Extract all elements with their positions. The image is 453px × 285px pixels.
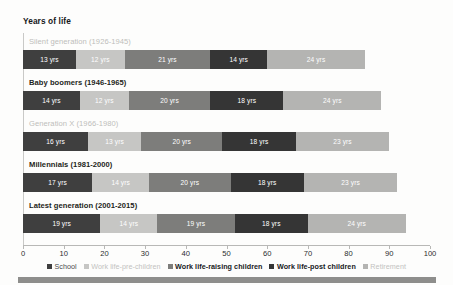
bar-segment[interactable]: 14 yrs bbox=[23, 91, 80, 110]
bar-segment[interactable]: 14 yrs bbox=[210, 50, 267, 69]
bar-segment-label: 14 yrs bbox=[111, 179, 130, 186]
x-axis-tick-label: 100 bbox=[424, 249, 437, 258]
bar-segment-label: 24 yrs bbox=[307, 56, 326, 63]
bar-segment[interactable]: 23 yrs bbox=[304, 173, 398, 192]
legend-item[interactable]: Work life-pre-children bbox=[84, 262, 161, 271]
legend-label: Work life-raising children bbox=[175, 262, 262, 271]
bar-group: Baby boomers (1946-1965)14 yrs12 yrs20 y… bbox=[23, 78, 430, 119]
bar-segment[interactable]: 14 yrs bbox=[92, 173, 149, 192]
bar-group-label: Silent generation (1926-1945) bbox=[29, 37, 131, 46]
x-axis-tick-label: 20 bbox=[100, 249, 108, 258]
bar-segment[interactable]: 19 yrs bbox=[23, 214, 100, 233]
bar-segment-label: 16 yrs bbox=[46, 138, 65, 145]
legend-swatch-icon bbox=[47, 264, 52, 269]
x-axis-tick-label: 90 bbox=[385, 249, 393, 258]
bar-segment-label: 19 yrs bbox=[52, 220, 71, 227]
plot-area: Silent generation (1926-1945)13 yrs12 yr… bbox=[23, 33, 430, 246]
legend-swatch-icon bbox=[269, 264, 274, 269]
legend-item[interactable]: School bbox=[47, 262, 77, 271]
bar-segment[interactable]: 16 yrs bbox=[23, 132, 88, 151]
bar-segment-label: 23 yrs bbox=[333, 138, 352, 145]
bar-segment[interactable]: 12 yrs bbox=[76, 50, 125, 69]
legend-label: Work life-post children bbox=[277, 262, 356, 271]
legend-item[interactable]: Retirement bbox=[363, 262, 406, 271]
x-axis-tick-label: 30 bbox=[141, 249, 149, 258]
bar-segment[interactable]: 23 yrs bbox=[296, 132, 390, 151]
legend-item[interactable]: Work life-raising children bbox=[168, 262, 263, 271]
x-axis-tick-label: 70 bbox=[304, 249, 312, 258]
bar-segment[interactable]: 24 yrs bbox=[283, 91, 381, 110]
bar-segment[interactable]: 17 yrs bbox=[23, 173, 92, 192]
x-axis-tick-label: 0 bbox=[21, 249, 25, 258]
bar-group-label: Millennials (1981-2000) bbox=[29, 160, 112, 169]
bar-group: Generation X (1966-1980)16 yrs13 yrs20 y… bbox=[23, 119, 430, 160]
legend-label: Retirement bbox=[370, 262, 406, 271]
bar-group-label: Latest generation (2001-2015) bbox=[29, 201, 137, 210]
bar-segment[interactable]: 19 yrs bbox=[157, 214, 234, 233]
bar-group-label: Generation X (1966-1980) bbox=[29, 119, 118, 128]
bar-segment[interactable]: 18 yrs bbox=[210, 91, 283, 110]
bar-segment-label: 13 yrs bbox=[105, 138, 124, 145]
bar-segment-label: 12 yrs bbox=[91, 56, 110, 63]
stacked-bar: 19 yrs14 yrs19 yrs18 yrs24 yrs bbox=[23, 214, 430, 233]
bar-segment-label: 18 yrs bbox=[258, 179, 277, 186]
bar-segment-label: 24 yrs bbox=[323, 97, 342, 104]
legend-swatch-icon bbox=[84, 264, 89, 269]
bar-group: Silent generation (1926-1945)13 yrs12 yr… bbox=[23, 37, 430, 78]
bar-segment-label: 23 yrs bbox=[341, 179, 360, 186]
legend-swatch-icon bbox=[363, 264, 368, 269]
stacked-bar: 16 yrs13 yrs20 yrs18 yrs23 yrs bbox=[23, 132, 430, 151]
stacked-bar-chart: Years of life Silent generation (1926-19… bbox=[0, 0, 453, 285]
legend-label: School bbox=[54, 262, 76, 271]
stacked-bar: 14 yrs12 yrs20 yrs18 yrs24 yrs bbox=[23, 91, 430, 110]
stacked-bar: 17 yrs14 yrs20 yrs18 yrs23 yrs bbox=[23, 173, 430, 192]
bar-segment-label: 20 yrs bbox=[172, 138, 191, 145]
bar-segment[interactable]: 13 yrs bbox=[23, 50, 76, 69]
bar-segment-label: 17 yrs bbox=[48, 179, 67, 186]
bar-segment-label: 18 yrs bbox=[250, 138, 269, 145]
bar-segment[interactable]: 13 yrs bbox=[88, 132, 141, 151]
bar-segment[interactable]: 24 yrs bbox=[267, 50, 365, 69]
bar-segment-label: 14 yrs bbox=[120, 220, 139, 227]
bar-segment[interactable]: 20 yrs bbox=[141, 132, 222, 151]
bar-group-label: Baby boomers (1946-1965) bbox=[29, 78, 126, 87]
bar-segment-label: 13 yrs bbox=[40, 56, 59, 63]
chart-legend: SchoolWork life-pre-childrenWork life-ra… bbox=[0, 262, 453, 271]
bar-segment[interactable]: 20 yrs bbox=[149, 173, 230, 192]
bar-segment[interactable]: 14 yrs bbox=[100, 214, 157, 233]
bar-segment[interactable]: 12 yrs bbox=[80, 91, 129, 110]
chart-title: Years of life bbox=[23, 16, 71, 26]
bar-segment-label: 24 yrs bbox=[347, 220, 366, 227]
bar-segment-label: 20 yrs bbox=[160, 97, 179, 104]
bar-segment-label: 14 yrs bbox=[229, 56, 248, 63]
x-axis-tick-label: 10 bbox=[59, 249, 67, 258]
legend-label: Work life-pre-children bbox=[91, 262, 160, 271]
bar-segment-label: 14 yrs bbox=[42, 97, 61, 104]
bar-segment[interactable]: 18 yrs bbox=[235, 214, 308, 233]
legend-swatch-icon bbox=[168, 264, 173, 269]
stacked-bar: 13 yrs12 yrs21 yrs14 yrs24 yrs bbox=[23, 50, 430, 69]
x-axis-tick-label: 40 bbox=[182, 249, 190, 258]
x-axis-tick-label: 50 bbox=[222, 249, 230, 258]
bar-segment[interactable]: 20 yrs bbox=[129, 91, 210, 110]
bar-segment[interactable]: 21 yrs bbox=[125, 50, 210, 69]
bar-segment-label: 21 yrs bbox=[158, 56, 177, 63]
bar-segment[interactable]: 18 yrs bbox=[222, 132, 295, 151]
bar-segment-label: 19 yrs bbox=[187, 220, 206, 227]
bar-segment-label: 18 yrs bbox=[262, 220, 281, 227]
bar-segment[interactable]: 24 yrs bbox=[308, 214, 406, 233]
bottom-decorative-band bbox=[18, 277, 436, 283]
x-axis-tick-label: 60 bbox=[263, 249, 271, 258]
x-axis-tick-label: 80 bbox=[344, 249, 352, 258]
bar-group: Millennials (1981-2000)17 yrs14 yrs20 yr… bbox=[23, 160, 430, 201]
legend-item[interactable]: Work life-post children bbox=[269, 262, 355, 271]
bar-segment[interactable]: 18 yrs bbox=[231, 173, 304, 192]
bar-segment-label: 18 yrs bbox=[238, 97, 257, 104]
bar-group: Latest generation (2001-2015)19 yrs14 yr… bbox=[23, 201, 430, 242]
bar-segment-label: 12 yrs bbox=[95, 97, 114, 104]
x-axis-labels: 0102030405060708090100 bbox=[23, 249, 430, 261]
bar-segment-label: 20 yrs bbox=[181, 179, 200, 186]
